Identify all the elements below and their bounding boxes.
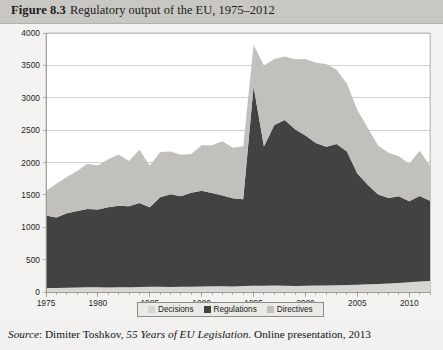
legend-swatch-decisions	[148, 306, 155, 313]
figure-container: Figure 8.3Regulatory output of the EU, 1…	[0, 0, 443, 350]
svg-text:2500: 2500	[21, 125, 40, 135]
legend-item-decisions: Decisions	[148, 305, 194, 314]
svg-text:2005: 2005	[348, 298, 367, 308]
source-rest: . Online presentation, 2013	[248, 328, 371, 340]
legend-label-directives: Directives	[277, 305, 313, 314]
stacked-area-chart: 05001000150020002500300035004000 1975198…	[0, 24, 443, 318]
figure-caption: Figure 8.3Regulatory output of the EU, 1…	[11, 3, 275, 18]
legend-label-decisions: Decisions	[158, 305, 194, 314]
source-work-title: 55 Years of EU Legislation	[126, 328, 248, 340]
chart-legend: Decisions Regulations Directives	[137, 302, 324, 317]
source-caption: Source: Dimiter Toshkov, 55 Years of EU …	[8, 328, 436, 340]
svg-text:1500: 1500	[21, 190, 40, 200]
svg-text:1975: 1975	[37, 298, 56, 308]
svg-text:2000: 2000	[21, 158, 40, 168]
svg-text:2010: 2010	[400, 298, 419, 308]
legend-label-regulations: Regulations	[214, 305, 257, 314]
svg-text:0: 0	[35, 287, 40, 297]
svg-text:500: 500	[26, 255, 40, 265]
legend-swatch-regulations	[204, 306, 211, 313]
source-author: Dimiter Toshkov,	[45, 328, 126, 340]
source-prefix: Source	[8, 328, 39, 340]
figure-number: Figure 8.3	[11, 3, 66, 17]
figure-header-band: Figure 8.3Regulatory output of the EU, 1…	[0, 0, 443, 24]
legend-item-directives: Directives	[267, 305, 313, 314]
svg-text:4000: 4000	[21, 28, 40, 38]
y-axis-ticks: 05001000150020002500300035004000	[21, 28, 46, 297]
svg-text:3000: 3000	[21, 93, 40, 103]
svg-text:1000: 1000	[21, 222, 40, 232]
legend-item-regulations: Regulations	[204, 305, 257, 314]
svg-text:1980: 1980	[89, 298, 108, 308]
page-title: Regulatory output of the EU, 1975–2012	[70, 3, 275, 17]
chart-area: 05001000150020002500300035004000 1975198…	[0, 24, 443, 318]
svg-text:3500: 3500	[21, 60, 40, 70]
legend-swatch-directives	[267, 306, 274, 313]
